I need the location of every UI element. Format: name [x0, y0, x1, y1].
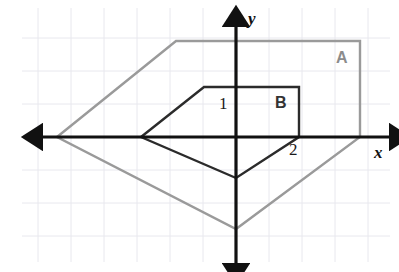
polygon-layer	[57, 41, 360, 229]
x-axis-label: x	[374, 144, 383, 161]
grid-lines	[22, 8, 390, 262]
y-axis-label: y	[248, 10, 256, 27]
axis-layer	[24, 8, 392, 266]
vertex-label-1: 1	[219, 95, 228, 112]
shape-b-label: B	[275, 95, 287, 111]
polygon-a	[57, 41, 360, 229]
vertex-label-2: 2	[289, 141, 298, 158]
shape-a-label: A	[336, 50, 348, 66]
geometry-figure: y x A B 1 2	[0, 0, 399, 272]
coordinate-plane-canvas	[0, 0, 399, 272]
